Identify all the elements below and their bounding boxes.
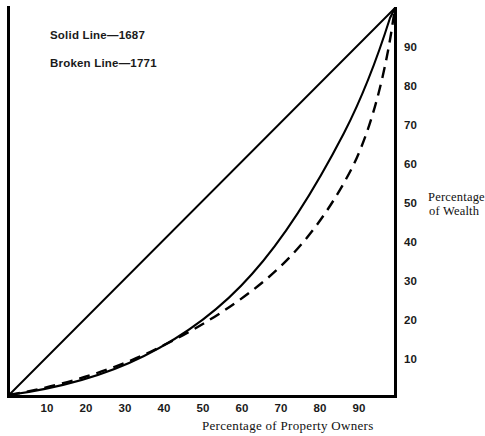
- x-tick-label-30: 30: [119, 402, 132, 414]
- y-tick-label-10: 10: [404, 353, 417, 365]
- x-tick-label-40: 40: [158, 402, 171, 414]
- x-tick-label-20: 20: [80, 402, 93, 414]
- y-tick-label-40: 40: [404, 236, 417, 248]
- x-tick-label-60: 60: [236, 402, 249, 414]
- y-tick-label-50: 50: [404, 197, 417, 209]
- y-axis-title-line1: Percentage: [428, 190, 485, 204]
- y-tick-label-60: 60: [404, 158, 417, 170]
- y-axis-title-line2: of Wealth: [428, 204, 485, 218]
- chart-legend: Solid Line—1687 Broken Line—1771: [50, 30, 157, 85]
- y-tick-label-80: 80: [404, 80, 417, 92]
- x-axis-title: Percentage of Property Owners: [202, 418, 374, 434]
- y-tick-label-20: 20: [404, 314, 417, 326]
- x-tick-label-70: 70: [275, 402, 288, 414]
- legend-item-broken-1771: Broken Line—1771: [50, 58, 157, 70]
- legend-label-broken-1771: Broken Line—1771: [50, 57, 157, 69]
- legend-item-solid-1687: Solid Line—1687: [50, 30, 157, 42]
- x-tick-label-90: 90: [353, 402, 366, 414]
- x-tick-label-80: 80: [314, 402, 327, 414]
- y-axis-title: Percentage of Wealth: [428, 190, 485, 219]
- legend-label-solid-1687: Solid Line—1687: [50, 29, 145, 41]
- x-tick-label-10: 10: [41, 402, 54, 414]
- y-tick-label-90: 90: [404, 41, 417, 53]
- y-tick-label-30: 30: [404, 275, 417, 287]
- y-tick-label-70: 70: [404, 119, 417, 131]
- x-tick-label-50: 50: [197, 402, 210, 414]
